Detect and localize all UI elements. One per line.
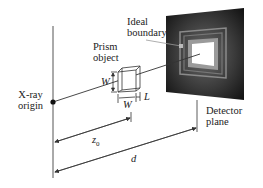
xray-origin-label: X-ray origin	[18, 89, 43, 111]
prism-label-line1: Prism	[93, 41, 119, 52]
dim-d-label: d	[131, 153, 136, 164]
ideal-boundary-label-line2: boundary	[127, 27, 167, 38]
ideal-boundary-label: Ideal boundary	[127, 16, 167, 38]
xray-label-line1: X-ray	[18, 89, 43, 100]
xray-geometry-diagram: Ideal boundary Prism object X-ray origin…	[0, 0, 263, 188]
ideal-boundary-label-line1: Ideal	[127, 16, 167, 27]
prism-object	[118, 66, 140, 92]
prism-label-line2: object	[93, 52, 119, 63]
dim-z0-subscript: 0	[96, 140, 100, 148]
dim-d	[55, 100, 197, 172]
dim-z0-label: z0	[92, 134, 100, 150]
prism-object-label: Prism object	[93, 41, 119, 63]
dim-w-horizontal-label: W	[123, 99, 132, 110]
xray-origin-point	[50, 99, 55, 104]
dim-w-vertical-label: W	[101, 76, 110, 87]
dim-l-label: L	[144, 91, 150, 102]
detector-label-line1: Detector	[206, 105, 242, 116]
shadow-region	[192, 42, 214, 66]
detector-plane	[166, 8, 244, 100]
detector-label-line2: plane	[206, 116, 242, 127]
detector-plane-label: Detector plane	[206, 105, 242, 127]
xray-label-line2: origin	[18, 100, 43, 111]
